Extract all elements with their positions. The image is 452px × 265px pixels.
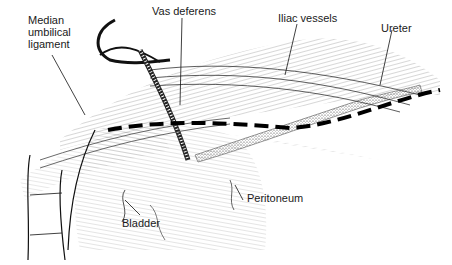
label-peritoneum: Peritoneum (247, 192, 303, 204)
label-vas-deferens: Vas deferens (152, 5, 216, 17)
label-bladder: Bladder (122, 217, 160, 229)
label-median-umbilical-ligament: Median umbilical ligament (28, 14, 71, 50)
peritoneal-flap (98, 20, 170, 63)
label-ureter: Ureter (381, 22, 412, 34)
peritoneum (230, 135, 380, 160)
label-iliac-vessels: Iliac vessels (278, 12, 337, 24)
anatomy-figure: Median umbilical ligament Vas deferens I… (0, 0, 452, 265)
bladder (68, 123, 266, 250)
